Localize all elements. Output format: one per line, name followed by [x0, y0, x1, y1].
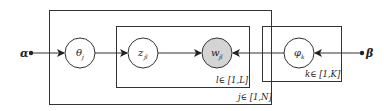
node-theta: θ j	[65, 38, 95, 68]
svg-text:k: k	[301, 53, 305, 60]
beta-label: β	[365, 47, 374, 60]
svg-text:φ: φ	[294, 47, 301, 58]
plate-inner-label: l∈ [1,L]	[216, 75, 249, 85]
node-phi: φ k	[284, 38, 314, 68]
plate-topic-label: k∈ [1,K]	[305, 69, 341, 79]
node-w-observed: w jl	[202, 38, 232, 68]
node-z: z jl	[128, 38, 158, 68]
svg-text:z: z	[137, 47, 144, 58]
beta-dot	[360, 51, 364, 55]
plate-diagram: α β θ j z jl w jl φ k l∈ [1,L] j∈ [1,N] …	[0, 0, 384, 111]
alpha-label: α	[20, 47, 29, 60]
plate-outer-label: j∈ [1,N]	[236, 92, 272, 102]
alpha-dot	[29, 51, 33, 55]
